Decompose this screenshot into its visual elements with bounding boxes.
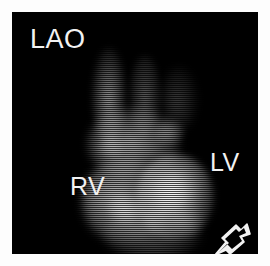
activity-left-ventricle (136, 154, 214, 240)
activity-hotspot-superior (154, 120, 184, 144)
activity-great-vessel-left (92, 48, 126, 144)
chamber-label-lv: LV (210, 150, 240, 175)
activity-great-vessel-right (130, 56, 160, 136)
activity-great-vessel-lateral (162, 68, 196, 130)
projection-label-lao: LAO (30, 26, 86, 53)
chamber-label-rv: RV (70, 174, 105, 199)
scan-viewer: LAO RV LV (0, 0, 270, 266)
activity-hotspot-lateral (172, 208, 204, 234)
activity-apex (104, 208, 200, 254)
scintigram-image: LAO RV LV (12, 12, 258, 254)
activity-atria (88, 108, 180, 180)
activity-hotspot-inferior (108, 196, 142, 222)
activity-right-ventricle (82, 158, 168, 244)
open-arrow-icon (210, 218, 254, 254)
activity-hotspot-medial (98, 136, 124, 158)
